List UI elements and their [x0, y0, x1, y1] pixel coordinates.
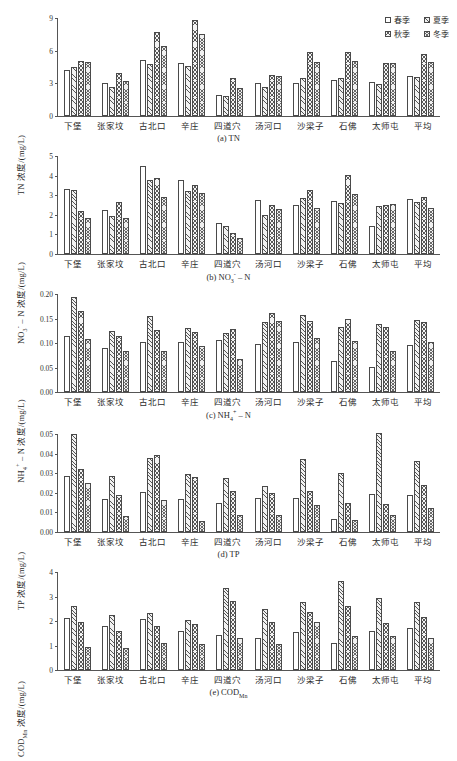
bar [185, 191, 191, 254]
bar [262, 609, 268, 670]
bar [307, 52, 313, 116]
bar [428, 508, 434, 532]
x-axis-category-label: 辛庄 [181, 119, 199, 131]
bar [123, 218, 129, 254]
bar [421, 54, 427, 116]
bar [123, 81, 129, 116]
x-axis-category-label: 张家坟 [97, 673, 124, 685]
bar [255, 638, 261, 670]
bar [369, 631, 375, 670]
y-tick-tp-0 [55, 532, 58, 533]
bar [230, 78, 236, 116]
legend-label: 冬季 [433, 28, 449, 39]
bar [147, 316, 153, 392]
bar [276, 209, 282, 254]
bar-group [254, 156, 282, 254]
bar [276, 515, 282, 532]
chart-panel-nh4n: NH4+ – N 浓度/(mg/L)0.000.050.100.150.20下堡… [0, 280, 457, 418]
bar [407, 495, 413, 532]
y-tick-label-tp-0: 0.00 [40, 528, 53, 537]
bar-group [139, 294, 167, 392]
x-axis-category-label: 四道穴 [214, 395, 241, 407]
chart-legend: 春季夏季秋季冬季 [385, 14, 449, 39]
y-tick-label-codmn-3: 3 [49, 592, 53, 601]
bar [223, 333, 229, 392]
plot-area-no3n: 012345 [57, 156, 440, 255]
bar [338, 473, 344, 532]
bar [376, 206, 382, 254]
bar-group [101, 572, 129, 670]
bar [331, 643, 337, 670]
x-axis-labels-tn: 下堡张家坟古北口辛庄四道穴汤河口沙梁子石佛太师屯平均 [57, 119, 439, 131]
bar [192, 185, 198, 254]
bar-group [254, 572, 282, 670]
bar [140, 619, 146, 670]
bar-group [63, 572, 91, 670]
bar [314, 505, 320, 532]
bar-group [407, 434, 435, 532]
bar [352, 341, 358, 392]
bar [71, 434, 77, 532]
bar [383, 623, 389, 670]
x-axis-category-label: 石佛 [339, 257, 357, 269]
bar [421, 322, 427, 392]
x-axis-category-label: 四道穴 [214, 535, 241, 547]
bar [116, 73, 122, 116]
bar-group [216, 294, 244, 392]
bar-group [292, 294, 320, 392]
x-axis-category-label: 古北口 [139, 257, 166, 269]
bar [85, 218, 91, 254]
bar [307, 491, 313, 532]
x-axis-category-label: 四道穴 [214, 673, 241, 685]
y-tick-label-tn-0: 0 [49, 112, 53, 121]
y-tick-label-nh4n-4: 0.20 [40, 290, 53, 299]
x-axis-category-label: 沙梁子 [297, 673, 324, 685]
bar [352, 520, 358, 532]
x-axis-category-label: 太师屯 [372, 535, 399, 547]
bar [216, 223, 222, 254]
bar [223, 588, 229, 670]
bar [369, 494, 375, 532]
legend-label: 秋季 [394, 28, 410, 39]
bar [161, 643, 167, 670]
bar-group [101, 434, 129, 532]
bar [276, 321, 282, 392]
chart-panel-codmn: CODMn 浓度/(mg/L)01234下堡张家坟古北口辛庄四道穴汤河口沙梁子石… [0, 558, 457, 696]
bar [345, 606, 351, 670]
bar [276, 644, 282, 670]
bar [369, 82, 375, 116]
bar-group [178, 18, 206, 116]
bar [407, 199, 413, 254]
bar [154, 455, 160, 532]
chart-panel-tp: TP 浓度/(mg/L)0.000.010.020.030.040.05下堡张家… [0, 420, 457, 558]
bar [178, 631, 184, 670]
legend-swatch-autumn [385, 31, 391, 37]
x-axis-category-label: 辛庄 [181, 257, 199, 269]
bar [352, 194, 358, 254]
x-axis-category-label: 汤河口 [255, 673, 282, 685]
y-tick-label-no3n-1: 1 [49, 230, 53, 239]
bar [223, 478, 229, 532]
x-axis-category-label: 沙梁子 [297, 119, 324, 131]
bar [192, 624, 198, 670]
bar [192, 20, 198, 116]
bar [123, 351, 129, 392]
y-tick-tn-0 [55, 116, 58, 117]
bar [293, 498, 299, 532]
bar-group [101, 156, 129, 254]
plot-area-tn: 0369 [57, 18, 440, 117]
y-tick-label-tn-3: 9 [49, 14, 53, 23]
x-axis-category-label: 石佛 [339, 119, 357, 131]
bar [262, 87, 268, 116]
bar [147, 64, 153, 116]
bar-group [139, 156, 167, 254]
bar [64, 70, 70, 116]
bar-group [139, 434, 167, 532]
legend-swatch-spring [385, 17, 391, 23]
subplot-caption-codmn: (e) CODMn [0, 687, 457, 699]
x-axis-category-label: 沙梁子 [297, 395, 324, 407]
bar-group [254, 294, 282, 392]
x-axis-labels-codmn: 下堡张家坟古北口辛庄四道穴汤河口沙梁子石佛太师屯平均 [57, 673, 439, 685]
y-tick-codmn-0 [55, 670, 58, 671]
bar [230, 233, 236, 254]
